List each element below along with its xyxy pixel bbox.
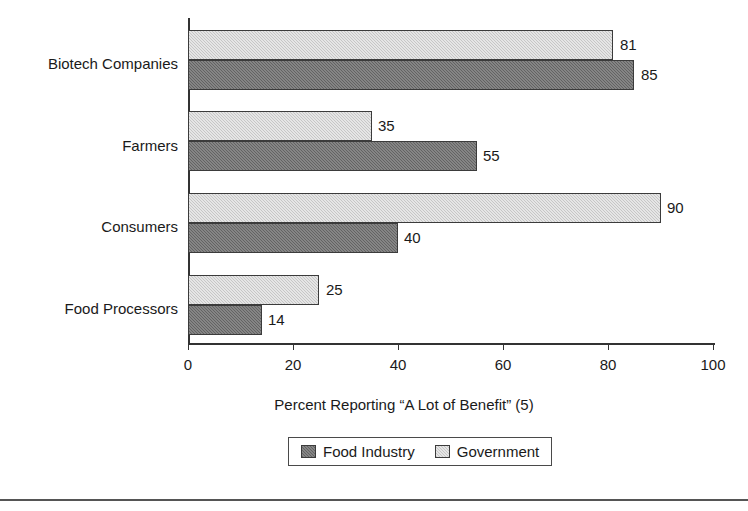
bar-government-food-processors[interactable] <box>188 275 319 305</box>
x-tick-label-80: 80 <box>600 356 617 373</box>
x-axis-title: Percent Reporting “A Lot of Benefit” (5) <box>0 396 748 413</box>
bar-value-food-industry-biotech-companies: 85 <box>641 60 658 90</box>
chart-figure: Biotech Companies Farmers Consumers Food… <box>0 0 748 511</box>
x-tick-100 <box>713 343 714 350</box>
x-tick-80 <box>608 343 609 350</box>
category-label-farmers: Farmers <box>122 137 178 155</box>
x-tick-0 <box>188 343 189 350</box>
category-label-biotech-companies: Biotech Companies <box>48 55 178 73</box>
x-tick-label-60: 60 <box>495 356 512 373</box>
legend-item-government[interactable]: Government <box>435 443 540 460</box>
bar-government-biotech-companies[interactable] <box>188 30 613 60</box>
chart-legend: Food Industry Government <box>288 437 552 466</box>
x-tick-label-20: 20 <box>285 356 302 373</box>
bar-value-government-consumers: 90 <box>667 193 684 223</box>
bar-group-consumers: 90 40 <box>188 193 713 255</box>
legend-swatch-government-icon <box>435 445 450 458</box>
x-axis-line <box>188 343 715 345</box>
bar-food-industry-farmers[interactable] <box>188 141 477 171</box>
legend-swatch-food-industry-icon <box>301 445 316 458</box>
bar-value-government-farmers: 35 <box>378 111 395 141</box>
category-label-food-processors: Food Processors <box>65 300 178 318</box>
bar-group-farmers: 35 55 <box>188 111 713 173</box>
bar-food-industry-biotech-companies[interactable] <box>188 60 634 90</box>
x-tick-60 <box>503 343 504 350</box>
bar-value-government-food-processors: 25 <box>326 275 343 305</box>
legend-label-food-industry: Food Industry <box>323 443 415 460</box>
x-tick-label-40: 40 <box>390 356 407 373</box>
bar-food-industry-consumers[interactable] <box>188 223 398 253</box>
x-tick-20 <box>293 343 294 350</box>
bar-value-government-biotech-companies: 81 <box>620 30 637 60</box>
x-tick-label-100: 100 <box>700 356 725 373</box>
bar-value-food-industry-farmers: 55 <box>483 141 500 171</box>
bar-group-biotech-companies: 81 85 <box>188 30 713 92</box>
plot-area: 0 20 40 60 80 100 81 85 35 55 90 40 <box>188 18 713 343</box>
bar-value-food-industry-consumers: 40 <box>404 223 421 253</box>
x-tick-40 <box>398 343 399 350</box>
page-divider-rule <box>0 499 748 501</box>
category-label-consumers: Consumers <box>101 218 178 236</box>
bar-food-industry-food-processors[interactable] <box>188 305 262 335</box>
x-tick-label-0: 0 <box>184 356 192 373</box>
bar-value-food-industry-food-processors: 14 <box>268 305 285 335</box>
legend-item-food-industry[interactable]: Food Industry <box>301 443 415 460</box>
bar-group-food-processors: 25 14 <box>188 275 713 337</box>
bar-government-consumers[interactable] <box>188 193 661 223</box>
bar-government-farmers[interactable] <box>188 111 372 141</box>
legend-label-government: Government <box>457 443 540 460</box>
